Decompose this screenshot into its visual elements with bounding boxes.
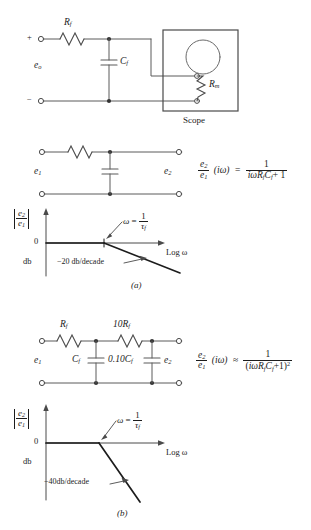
equation-b: e2 e1 (iω) ≈ 1 (iωRfCf+1)2: [196, 350, 292, 372]
figure-linework: [0, 0, 311, 530]
circuit-b-r2-label: 10Rf: [113, 320, 130, 330]
terminal-plus-node: [38, 36, 43, 41]
circuit-a-output-label: e2: [164, 167, 171, 177]
circuit-b-output-subscript: 2: [168, 358, 171, 365]
plot-a-zero-tick-label: 0: [34, 237, 38, 246]
circuit-a-input-subscript: 1: [38, 169, 41, 176]
plot-a-corner-annotation: ω = 1 τf: [123, 212, 148, 231]
equation-b-ratio: e2 e1: [196, 351, 207, 372]
plot-b-x-axis-label: Log ω: [166, 448, 187, 457]
circuit-b-input-subscript: 1: [38, 358, 41, 365]
plot-b-corner-den-sub: f: [138, 424, 140, 430]
plot-b-y-den-sub: 1: [22, 423, 25, 429]
eq-b-rhs-den-text: iωR: [249, 361, 264, 371]
scope-crt-circle: [186, 40, 220, 74]
scope-box-outline: [163, 30, 238, 111]
terminal-minus-label: −: [27, 95, 32, 104]
resistor-rf-label-top: Rf: [64, 18, 72, 28]
plot-a-corner-den-sub: f: [144, 225, 146, 231]
plot-b-y-num-sub: 2: [22, 412, 25, 418]
circuit-b-c2-subscript: f: [131, 357, 133, 364]
circuit-b-r1-label: Rf: [60, 320, 68, 330]
plot-b-slope-label: −40db/decade: [44, 478, 89, 486]
plot-a-x-axis-label: Log ω: [166, 248, 187, 257]
plot-b-equals: =: [126, 415, 131, 425]
circuit-b-r1-subscript: f: [66, 322, 68, 329]
plot-b-y-axis-label: e2 e1: [14, 409, 29, 429]
plot-b-corner-annotation: ω = 1 τf: [117, 411, 142, 430]
eq-a-rhs-numerator: 1: [246, 160, 288, 170]
eq-b-num-sub: 2: [202, 353, 205, 360]
plot-a-equals: =: [132, 216, 137, 226]
figure-container: + − eo Rf Cf Rm Scope e1 e2 e2 e1 (iω) =…: [0, 0, 311, 530]
plot-a-y-axis-label: e2 e1: [14, 209, 29, 229]
equation-a-ratio: e2 e1: [198, 160, 209, 181]
circuit-b-r2-subscript: f: [128, 322, 130, 329]
circuit-b-c1-subscript: f: [78, 357, 80, 364]
plot-b-omega-symbol: ω: [117, 415, 123, 425]
capacitor-cf-subscript: f: [126, 59, 128, 66]
eq-a-argument: (iω): [214, 165, 230, 175]
equation-b-rhs: 1 (iωRfCf+1)2: [243, 350, 292, 372]
eq-a-rhs-den-text: iωR: [248, 170, 263, 180]
plot-a-y-num-sub: 2: [22, 212, 25, 218]
plot-a-slope-label: −20 db/decade: [57, 258, 104, 266]
circuit-b-r2-symbol: 10R: [113, 319, 128, 329]
terminal-plus-label: +: [27, 33, 32, 42]
plot-a-corner-num: 1: [139, 212, 148, 221]
eq-b-rhs-den-exponent: 2: [287, 360, 290, 367]
figure-caption-a: (a): [131, 281, 142, 290]
circuit-b-c1-label: Cf: [72, 355, 80, 365]
circuit-b-c2-symbol: 0.10C: [108, 354, 131, 364]
eq-b-rhs-den-tail: +1: [274, 361, 284, 371]
resistor-rf-subscript: f: [70, 20, 72, 27]
eq-b-relation: ≈: [233, 355, 238, 365]
source-voltage-subscript: o: [38, 63, 41, 70]
equation-a: e2 e1 (iω) = 1 iωRfCf+ 1: [198, 160, 287, 181]
capacitor-cf-label-top: Cf: [120, 57, 128, 67]
plot-a-omega-symbol: ω: [123, 216, 129, 226]
figure-caption-b: (b): [117, 509, 128, 518]
plot-a-y-unit-label: db: [23, 257, 32, 266]
scope-resistor-subscript: m: [215, 82, 220, 89]
eq-b-rhs-numerator: 1: [243, 350, 292, 360]
plot-a-y-den-sub: 1: [22, 223, 25, 229]
terminal-minus-node: [38, 98, 43, 103]
scope-resistor-rm-label: Rm: [209, 80, 219, 90]
scope-label: Scope: [183, 116, 205, 125]
circuit-a-input-label: e1: [34, 167, 41, 177]
eq-a-rhs-den-tail: + 1: [273, 170, 285, 180]
circuit-b-c2-label: 0.10Cf: [108, 355, 133, 365]
plot-b-corner-num: 1: [133, 411, 142, 420]
eq-a-num-sub: 2: [204, 162, 207, 169]
eq-b-den-sub: 1: [202, 364, 205, 371]
equation-a-rhs: 1 iωRfCf+ 1: [246, 160, 288, 180]
circuit-a-output-subscript: 2: [168, 169, 171, 176]
plot-b-zero-tick-label: 0: [34, 437, 38, 446]
eq-a-relation: =: [235, 165, 240, 175]
plot-b-y-unit-label: db: [23, 457, 32, 466]
eq-b-argument: (iω): [212, 355, 228, 365]
source-voltage-label: eo: [34, 61, 41, 71]
eq-a-den-sub: 1: [204, 173, 207, 180]
circuit-b-output-label: e2: [164, 356, 171, 366]
circuit-b-input-label: e1: [34, 356, 41, 366]
